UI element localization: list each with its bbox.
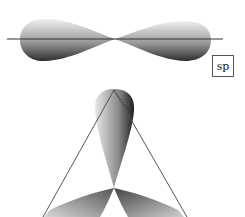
sp-label-box: sp	[212, 55, 234, 77]
sp-orbital	[7, 19, 223, 61]
sp2-orbital	[43, 89, 187, 217]
sp-left-lobe	[20, 19, 115, 61]
sp2-bottom-right-lobe	[114, 188, 184, 217]
orbital-diagram	[0, 0, 245, 217]
sp-label: sp	[217, 60, 230, 73]
sp-right-lobe	[115, 21, 211, 61]
sp2-top-lobe	[95, 89, 134, 188]
sp2-bottom-left-lobe	[44, 188, 114, 217]
